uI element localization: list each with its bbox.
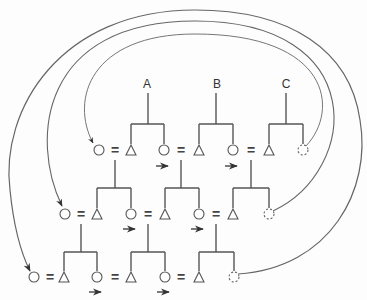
- diagram-canvas: A B C = = = = = =: [0, 0, 367, 300]
- triangle-node: [264, 145, 274, 155]
- tree-c: [269, 93, 303, 144]
- equals-sign: =: [177, 142, 185, 158]
- circle-node: [194, 209, 204, 219]
- tree-bottom-1: [64, 224, 97, 271]
- equals-sign: =: [212, 206, 220, 222]
- triangle-node: [160, 209, 170, 219]
- triangle-node: [126, 272, 136, 282]
- tree-middle-1: [97, 160, 131, 208]
- triangle-node: [92, 209, 102, 219]
- tree-b: [199, 93, 233, 144]
- tree-middle-3: [233, 160, 269, 208]
- circle-node: [60, 209, 70, 219]
- circle-node: [92, 272, 102, 282]
- label-b: B: [213, 77, 221, 91]
- tree-bottom-3: [199, 224, 234, 271]
- label-c: C: [282, 77, 291, 91]
- dashed-circle-node: [298, 145, 308, 155]
- circle-node: [228, 145, 238, 155]
- triangle-node: [194, 145, 204, 155]
- equals-sign: =: [247, 142, 255, 158]
- arc-middle: [47, 21, 334, 211]
- equals-sign: =: [177, 269, 185, 285]
- circle-node: [159, 145, 169, 155]
- dashed-circle-node: [264, 209, 274, 219]
- circle-node: [126, 209, 136, 219]
- tree-bottom-2: [131, 224, 165, 271]
- equals-sign: =: [46, 269, 54, 285]
- triangle-node: [194, 272, 204, 282]
- triangle-node: [126, 145, 136, 155]
- tree-middle-2: [165, 160, 199, 208]
- dashed-circle-node: [229, 272, 239, 282]
- circle-node: [94, 145, 104, 155]
- circle-node: [160, 272, 170, 282]
- label-a: A: [143, 77, 151, 91]
- equals-sign: =: [111, 142, 119, 158]
- diagram-svg: A B C = = = = = =: [0, 0, 367, 300]
- equals-sign: =: [111, 269, 119, 285]
- triangle-node: [59, 272, 69, 282]
- triangle-node: [228, 209, 238, 219]
- circle-node: [29, 272, 39, 282]
- equals-sign: =: [77, 206, 85, 222]
- equals-sign: =: [144, 206, 152, 222]
- tree-a: [131, 93, 164, 144]
